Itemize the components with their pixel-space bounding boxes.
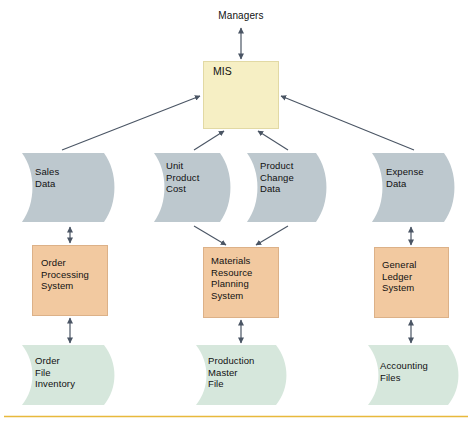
datastore-shape-expense-data[interactable]: [372, 153, 455, 222]
process-box-general-ledger-system[interactable]: [375, 248, 449, 318]
arrow-product-change-data-to-mrp: [256, 226, 288, 245]
file-shape-order-file-inventory[interactable]: [22, 345, 115, 405]
arrow-product-change-data-to-mis: [258, 131, 288, 150]
arrow-expense-data-to-mis: [281, 96, 414, 150]
file-shape-production-master-file[interactable]: [196, 345, 287, 405]
process-box-order-processing-system[interactable]: [33, 246, 108, 316]
diagram-canvas: Managers MIS Sales Data Unit Product Cos…: [0, 0, 472, 426]
datastore-shape-unit-product-cost[interactable]: [154, 153, 231, 222]
datastore-shape-product-change-data[interactable]: [247, 153, 327, 222]
mis-box[interactable]: [204, 62, 279, 129]
arrow-sales-data-to-mis: [62, 96, 200, 150]
arrow-unit-product-cost-to-mis: [194, 131, 224, 150]
arrow-unit-product-cost-to-mrp: [194, 226, 226, 245]
process-box-materials-resource-planning-system[interactable]: [204, 248, 279, 318]
diagram-shapes-layer: [0, 0, 472, 426]
file-shape-accounting-files[interactable]: [368, 345, 459, 405]
datastore-shape-sales-data[interactable]: [22, 153, 115, 222]
